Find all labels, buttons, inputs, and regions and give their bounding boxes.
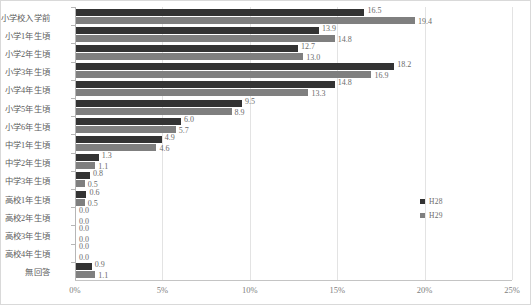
bar-h29: [76, 162, 95, 169]
chart-legend: H28H29: [420, 194, 443, 222]
value-label-h28: 18.2: [397, 61, 411, 69]
bar-row: 中学2年生頃1.31.1: [75, 153, 512, 171]
bar-row: 無回答0.91.1: [75, 262, 512, 280]
value-label-h28: 4.9: [165, 134, 175, 142]
x-tick-label: 10%: [242, 285, 258, 295]
y-tick: [71, 62, 75, 63]
bar-row: 高校3年生頃0.00.0: [75, 225, 512, 243]
bar-h29: [76, 35, 335, 42]
value-label-h28: 13.9: [322, 25, 336, 33]
bar-h29: [76, 199, 85, 206]
bar-h28: [76, 118, 181, 125]
value-label-h28: 12.7: [301, 43, 315, 51]
bar-h29: [76, 53, 303, 60]
legend-label: H28: [429, 197, 443, 206]
bar-row: 高校4年生頃0.00.0: [75, 244, 512, 262]
bar-h28: [76, 63, 394, 70]
y-tick: [71, 116, 75, 117]
category-label: 小学2年生頃: [5, 47, 50, 59]
value-label-h28: 6.0: [184, 116, 194, 124]
bar-h28: [76, 191, 86, 198]
category-label: 小学1年生頃: [5, 29, 50, 41]
category-label: 中学2年生頃: [5, 156, 50, 168]
bar-h29: [76, 126, 176, 133]
value-label-h28: 0.0: [79, 225, 89, 233]
bar-h29: [76, 17, 415, 24]
bar-row: 小学5年生頃9.58.9: [75, 98, 512, 116]
value-label-h28: 0.6: [89, 189, 99, 197]
category-label: 無回答: [25, 265, 50, 277]
category-label: 中学1年生頃: [5, 138, 50, 150]
x-tick-label: 0%: [69, 285, 80, 295]
bar-h29: [76, 89, 308, 96]
y-tick: [71, 153, 75, 154]
bar-row: 高校2年生頃0.00.0: [75, 207, 512, 225]
y-tick: [71, 244, 75, 245]
value-label-h28: 0.0: [79, 207, 89, 215]
gridline: [512, 7, 513, 280]
bar-h29: [76, 271, 95, 278]
bar-h28: [76, 27, 319, 34]
category-label: 中学3年生頃: [5, 174, 50, 186]
bar-row: 小学3年生頃18.216.9: [75, 62, 512, 80]
category-label: 小学4年生頃: [5, 83, 50, 95]
x-tick-label: 15%: [329, 285, 345, 295]
x-tick-label: 5%: [157, 285, 168, 295]
bar-h28: [76, 263, 92, 270]
y-tick: [71, 25, 75, 26]
value-label-h28: 0.9: [95, 261, 105, 269]
category-label: 高校4年生頃: [5, 247, 50, 259]
plot-area: 小学校入学前16.519.4小学1年生頃13.914.8小学2年生頃12.713…: [75, 7, 512, 280]
legend-swatch-icon: [420, 213, 425, 218]
value-label-h28: 14.8: [338, 79, 352, 87]
y-tick: [71, 189, 75, 190]
bar-row: 中学3年生頃0.80.5: [75, 171, 512, 189]
bar-h28: [76, 9, 364, 16]
value-label-h28: 1.3: [102, 152, 112, 160]
bar-h28: [76, 136, 162, 143]
bar-row: 小学2年生頃12.713.0: [75, 43, 512, 61]
value-label-h28: 0.0: [79, 243, 89, 251]
legend-swatch-icon: [420, 199, 425, 204]
category-label: 小学3年生頃: [5, 65, 50, 77]
category-label: 高校1年生頃: [5, 193, 50, 205]
bar-row: 高校1年生頃0.60.5: [75, 189, 512, 207]
bar-row: 小学1年生頃13.914.8: [75, 25, 512, 43]
value-label-h28: 16.5: [367, 7, 381, 15]
y-tick: [71, 134, 75, 135]
bar-row: 小学校入学前16.519.4: [75, 7, 512, 25]
y-tick: [71, 7, 75, 8]
legend-label: H29: [429, 211, 443, 220]
bar-h28: [76, 172, 90, 179]
y-tick: [71, 207, 75, 208]
bar-h29: [76, 71, 371, 78]
bar-row: 中学1年生頃4.94.6: [75, 134, 512, 152]
bar-h28: [76, 81, 335, 88]
bar-h29: [76, 108, 232, 115]
bar-h29: [76, 144, 156, 151]
x-tick-label: 25%: [504, 285, 520, 295]
bar-h28: [76, 100, 242, 107]
legend-item-h29[interactable]: H29: [420, 208, 443, 222]
bar-row: 小学4年生頃14.813.3: [75, 80, 512, 98]
category-label: 小学5年生頃: [5, 102, 50, 114]
y-tick: [71, 80, 75, 81]
y-tick: [71, 171, 75, 172]
bar-h28: [76, 45, 298, 52]
y-tick: [71, 98, 75, 99]
chart-figure: 小学校入学前16.519.4小学1年生頃13.914.8小学2年生頃12.713…: [0, 0, 531, 305]
x-axis-line: [75, 280, 512, 281]
value-label-h28: 9.5: [245, 98, 255, 106]
category-label: 小学6年生頃: [5, 120, 50, 132]
bar-row: 小学6年生頃6.05.7: [75, 116, 512, 134]
category-label: 高校2年生頃: [5, 211, 50, 223]
category-label: 小学校入学前: [1, 11, 50, 23]
bar-h28: [76, 154, 99, 161]
category-label: 高校3年生頃: [5, 229, 50, 241]
x-tick-label: 20%: [417, 285, 433, 295]
y-tick: [71, 262, 75, 263]
bar-h29: [76, 180, 85, 187]
legend-item-h28[interactable]: H28: [420, 194, 443, 208]
y-tick: [71, 225, 75, 226]
value-label-h28: 0.8: [93, 170, 103, 178]
